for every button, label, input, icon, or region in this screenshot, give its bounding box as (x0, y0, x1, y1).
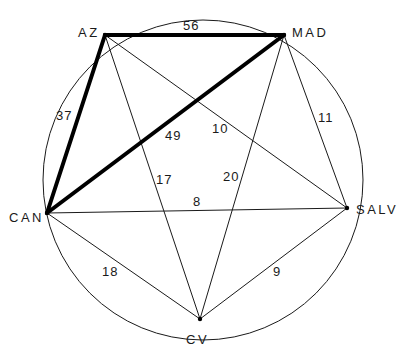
edge-mad-salv (284, 35, 347, 208)
edges-group (47, 35, 347, 319)
edge-weight-mad-cv: 20 (223, 169, 239, 184)
node-az (103, 33, 107, 37)
node-label-az: AZ (78, 25, 100, 40)
node-mad (282, 33, 286, 37)
graph-diagram: 563749101720118189 AZMADSALVCVCAN (0, 0, 409, 350)
edge-weight-cv-salv: 9 (273, 264, 281, 279)
edge-weight-az-mad: 56 (183, 18, 199, 33)
node-label-cv: CV (186, 332, 209, 347)
edge-az-cv (105, 35, 200, 319)
node-can (45, 211, 49, 215)
nodes-group: AZMADSALVCVCAN (9, 25, 398, 347)
edge-az-can (47, 35, 105, 213)
node-label-salv: SALV (356, 202, 398, 217)
edge-weight-mad-salv: 11 (318, 110, 334, 125)
edge-can-cv (47, 213, 200, 319)
edge-weight-az-can: 37 (56, 108, 72, 123)
edge-weight-can-cv: 18 (102, 264, 118, 279)
edge-weight-az-salv: 10 (212, 121, 228, 136)
edge-weight-az-cv: 17 (156, 172, 172, 187)
edge-mad-cv (200, 35, 284, 319)
node-salv (345, 206, 349, 210)
node-label-mad: MAD (292, 25, 328, 40)
node-label-can: CAN (9, 210, 44, 225)
node-cv (198, 317, 202, 321)
edge-weight-can-salv: 8 (193, 194, 201, 209)
edge-weight-can-mad: 49 (165, 128, 181, 143)
